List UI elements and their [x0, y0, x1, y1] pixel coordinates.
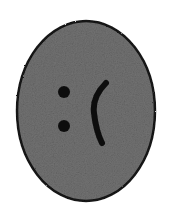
- sad-face-illustration: [0, 0, 170, 216]
- face-ellipse: [17, 21, 155, 201]
- face-body: [17, 21, 155, 201]
- upper-dot-icon: [58, 86, 70, 98]
- lower-dot-icon: [58, 120, 70, 132]
- image-canvas: [0, 0, 170, 216]
